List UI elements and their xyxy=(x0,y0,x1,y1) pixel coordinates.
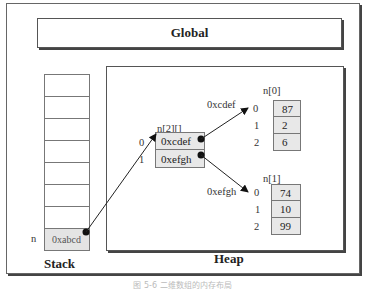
arrow-to-n1 xyxy=(201,155,248,192)
figure-caption: 图 5-6 二维数组的内存布局 xyxy=(0,279,365,290)
arrow-to-n0 xyxy=(201,108,248,139)
arrow-n-to-ptrarray xyxy=(86,134,156,232)
